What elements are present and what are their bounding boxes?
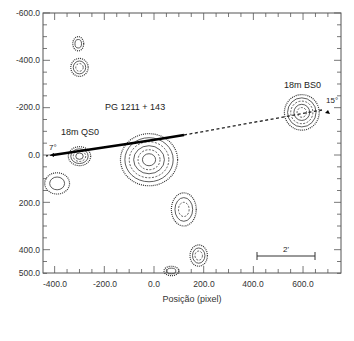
x-tick-label: -200.0 [93, 279, 117, 289]
annotation-qso: 18m QS0 [61, 127, 99, 137]
y-tick-label: 0.0 [28, 150, 40, 160]
contour-level [288, 98, 316, 127]
contour-sources [45, 37, 319, 276]
annotation-angle-left: 7° [49, 143, 57, 152]
contour-level [297, 108, 306, 118]
y-tick-label: -600.0 [16, 8, 40, 18]
x-tick-label: 600.0 [292, 279, 314, 289]
contour-level [294, 104, 310, 120]
contour-level [75, 39, 82, 48]
contour-level [129, 142, 169, 178]
contour-level [45, 173, 70, 194]
y-tick-label: -200.0 [16, 102, 40, 112]
y-axis: -600.0 -400.0 -200.0 0.0 200.0 400.0 500… [16, 8, 40, 278]
contour-level [76, 153, 83, 159]
x-tick-label: 400.0 [242, 279, 264, 289]
contour-level [76, 64, 83, 72]
x-tick-label: -400.0 [43, 279, 67, 289]
contour-chart: -600.0 -400.0 -200.0 0.0 200.0 400.0 500… [0, 0, 354, 341]
scale-bar-label: 2' [283, 245, 289, 254]
arrow-left-icon [50, 153, 54, 157]
x-tick-label: 200.0 [193, 279, 215, 289]
tick-marks [43, 13, 341, 273]
contour-level [73, 61, 85, 74]
x-tick-label: 0.0 [148, 279, 160, 289]
y-tick-label: 400.0 [19, 245, 41, 255]
contour-level [138, 150, 160, 170]
contour-level [50, 177, 65, 190]
scale-bar: 2' [257, 245, 315, 260]
y-tick-label: -400.0 [16, 55, 40, 65]
annotation-pg: PG 1211 + 143 [105, 102, 165, 112]
contour-level [142, 154, 155, 166]
slit-dashed [184, 110, 322, 135]
annotation-bso: 18m BS0 [284, 80, 321, 90]
contour-level [73, 37, 84, 51]
contour-level [195, 251, 202, 260]
plot-frame [43, 13, 341, 273]
arrow-right-icon [325, 110, 330, 114]
y-tick-label: 500.0 [19, 268, 41, 278]
y-tick-label: 200.0 [19, 198, 41, 208]
x-axis-label: Posição (pixel) [162, 294, 221, 304]
slit-solid [53, 135, 184, 155]
annotation-angle-right: 15° [326, 96, 338, 105]
x-axis: -400.0 -200.0 0.0 200.0 400.0 600.0 Posi… [43, 279, 314, 304]
contour-level [175, 198, 193, 222]
contour-level [284, 95, 319, 131]
contour-level [193, 248, 205, 263]
contour-level [178, 202, 189, 216]
